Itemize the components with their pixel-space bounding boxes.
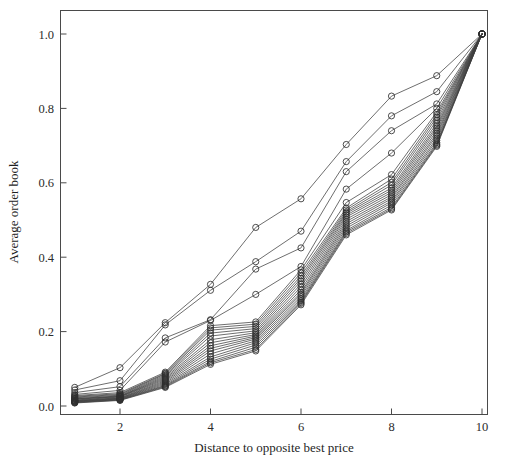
- y-axis-label: Average order book: [6, 160, 21, 263]
- chart-figure: 0.00.20.40.60.81.0 246810 Distance to op…: [0, 0, 513, 471]
- y-tick-label: 1.0: [38, 28, 54, 42]
- x-tick-label: 2: [117, 420, 123, 434]
- y-tick-label: 0.4: [38, 251, 54, 265]
- scatter-line-plot: 0.00.20.40.60.81.0 246810 Distance to op…: [0, 0, 513, 471]
- y-tick-label: 0.6: [38, 176, 54, 190]
- x-tick-label: 4: [207, 420, 214, 434]
- y-tick-label: 0.2: [38, 325, 54, 339]
- y-tick-label: 0.8: [38, 102, 54, 116]
- x-tick-label: 6: [298, 420, 304, 434]
- y-tick-label: 0.0: [38, 400, 54, 414]
- x-axis-label: Distance to opposite best price: [194, 440, 354, 455]
- x-tick-label: 10: [476, 420, 489, 434]
- x-tick-label: 8: [388, 420, 394, 434]
